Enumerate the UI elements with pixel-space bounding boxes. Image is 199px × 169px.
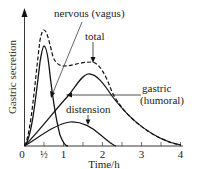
label-gastric: gastric [142, 82, 171, 94]
tick-label-0: 0 [19, 148, 25, 160]
tick-label-4: 4 [178, 148, 184, 160]
curve-nervous [25, 46, 69, 146]
gastric-secretion-chart: 0 ½ 1 2 3 4 Time/h nervous (vagus) total… [0, 0, 199, 169]
label-humoral: (humoral) [140, 94, 184, 107]
tick-label-half: ½ [40, 149, 48, 160]
y-axis-arrow-icon [22, 8, 28, 17]
tick-label-1: 1 [61, 148, 67, 160]
label-distension: distension [66, 103, 111, 115]
label-nervous: nervous (vagus) [54, 7, 125, 20]
arrowhead-distension-icon [86, 120, 91, 126]
label-total: total [85, 30, 105, 42]
tick-label-3: 3 [139, 148, 145, 160]
y-axis-label: Gastric secretion [6, 37, 18, 117]
arrowhead-total-icon [91, 57, 96, 63]
x-axis-label: Time/h [88, 158, 120, 169]
